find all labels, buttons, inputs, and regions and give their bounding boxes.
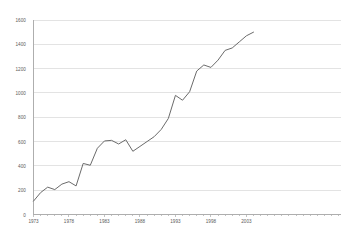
x-tick-label-1983: 1983 (89, 219, 119, 224)
y-tick-label-200: 200 (2, 188, 26, 193)
x-tick-label-1978: 1978 (54, 219, 84, 224)
y-tick-label-600: 600 (2, 139, 26, 144)
x-tick-label-1993: 1993 (160, 219, 190, 224)
x-tick-label-1973: 1973 (19, 219, 49, 224)
y-tick-label-1600: 1600 (2, 18, 26, 23)
y-tick-label-800: 800 (2, 115, 26, 120)
gridlines (34, 20, 341, 215)
data-series-lines (34, 32, 254, 201)
y-tick-label-400: 400 (2, 163, 26, 168)
x-tick-label-1998: 1998 (196, 219, 226, 224)
y-tick-label-1200: 1200 (2, 66, 26, 71)
chart-canvas (0, 0, 347, 243)
x-tick-label-1988: 1988 (125, 219, 155, 224)
line-chart: 02004006008001000120014001600 1973197819… (0, 0, 347, 243)
series-line-1 (34, 32, 254, 201)
x-tick-label-2003: 2003 (231, 219, 261, 224)
y-tick-label-1400: 1400 (2, 42, 26, 47)
y-tick-label-0: 0 (2, 212, 26, 217)
y-tick-label-1000: 1000 (2, 90, 26, 95)
